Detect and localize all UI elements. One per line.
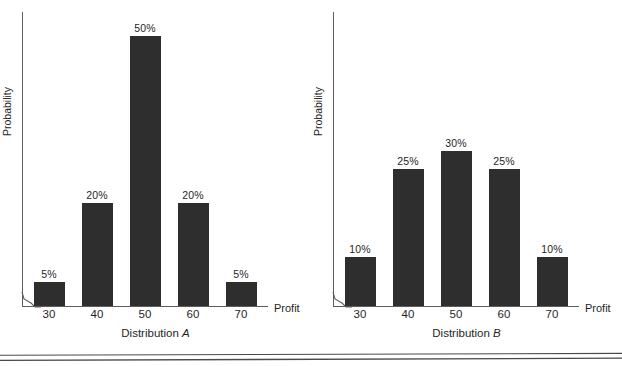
- x-tick-label-60-a: 60: [171, 308, 215, 320]
- chart-panel-distribution-a: 5% 20% 50% 20% 5%: [0, 0, 311, 350]
- bar-value-label-50-a: 50%: [123, 22, 167, 34]
- bar-slot-70-b: 10%: [530, 12, 574, 306]
- bar-slot-50-b: 30%: [434, 12, 478, 306]
- bar-value-label-60-a: 20%: [171, 189, 215, 201]
- bar-value-label-30-b: 10%: [338, 243, 382, 255]
- bar-group-a: 5% 20% 50% 20% 5%: [22, 12, 268, 306]
- x-tick-label-40-b: 40: [386, 308, 430, 320]
- bar-30-b: [345, 257, 376, 306]
- bar-40-a: [82, 203, 113, 306]
- bottom-divider-rules: [0, 348, 622, 366]
- two-panel-bar-chart-figure: 5% 20% 50% 20% 5%: [0, 0, 622, 366]
- bar-slot-70-a: 5%: [219, 12, 263, 306]
- bar-slot-30-a: 5%: [27, 12, 71, 306]
- x-axis-title-a: Profit: [274, 302, 300, 314]
- plot-area-b: 10% 25% 30% 25% 10%: [333, 12, 601, 307]
- bar-value-label-50-b: 30%: [434, 137, 478, 149]
- bar-50-b: [441, 151, 472, 306]
- x-tick-label-50-b: 50: [434, 308, 478, 320]
- x-tick-label-70-b: 70: [530, 308, 574, 320]
- bar-value-label-60-b: 25%: [482, 155, 526, 167]
- panel-caption-b-prefix: Distribution: [432, 327, 493, 339]
- bar-value-label-30-a: 5%: [27, 268, 71, 280]
- bar-50-a: [130, 36, 161, 306]
- x-axis-line-b: [333, 306, 579, 307]
- bar-slot-50-a: 50%: [123, 12, 167, 306]
- bar-slot-30-b: 10%: [338, 12, 382, 306]
- bar-value-label-40-b: 25%: [386, 155, 430, 167]
- x-tick-label-60-b: 60: [482, 308, 526, 320]
- x-tick-label-70-a: 70: [219, 308, 263, 320]
- panel-caption-a-letter: A: [182, 327, 190, 339]
- bar-group-b: 10% 25% 30% 25% 10%: [333, 12, 579, 306]
- bar-70-b: [537, 257, 568, 306]
- x-tick-label-30-a: 30: [27, 308, 71, 320]
- x-tick-label-50-a: 50: [123, 308, 167, 320]
- panel-caption-a-prefix: Distribution: [121, 327, 182, 339]
- bar-60-a: [178, 203, 209, 306]
- x-axis-title-b: Profit: [585, 302, 611, 314]
- x-tick-label-30-b: 30: [338, 308, 382, 320]
- chart-panel-distribution-b: 10% 25% 30% 25% 10%: [311, 0, 622, 350]
- plot-area-a: 5% 20% 50% 20% 5%: [22, 12, 290, 307]
- y-axis-title-a: Probability: [1, 87, 13, 136]
- bar-slot-40-b: 25%: [386, 12, 430, 306]
- bar-slot-60-b: 25%: [482, 12, 526, 306]
- x-axis-line-a: [22, 306, 268, 307]
- bar-value-label-40-a: 20%: [75, 189, 119, 201]
- x-tick-label-40-a: 40: [75, 308, 119, 320]
- bar-40-b: [393, 169, 424, 306]
- panel-caption-a: Distribution A: [0, 327, 311, 339]
- y-axis-title-b: Probability: [312, 87, 324, 136]
- bar-value-label-70-b: 10%: [530, 243, 574, 255]
- bar-60-b: [489, 169, 520, 306]
- bar-value-label-70-a: 5%: [219, 268, 263, 280]
- bar-70-a: [226, 282, 257, 306]
- panel-caption-b: Distribution B: [311, 327, 622, 339]
- panel-caption-b-letter: B: [493, 327, 501, 339]
- bar-slot-40-a: 20%: [75, 12, 119, 306]
- bar-slot-60-a: 20%: [171, 12, 215, 306]
- bar-30-a: [34, 282, 65, 306]
